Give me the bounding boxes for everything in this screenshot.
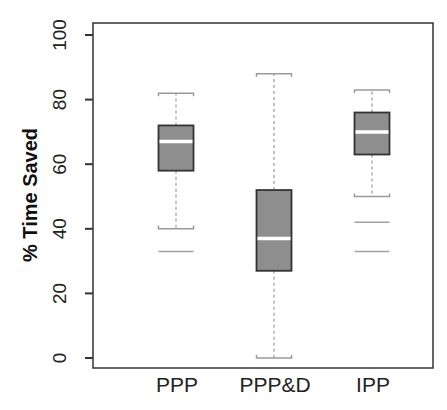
y-tick-label: 100 <box>49 19 70 51</box>
y-tick-label: 0 <box>49 353 70 364</box>
x-axis-labels: PPPPPP&DIPP <box>156 373 390 396</box>
x-category-label: IPP <box>356 373 390 396</box>
boxplot-chart: 020406080100 % Time Saved PPPPPP&DIPP <box>0 0 447 410</box>
y-axis-title: % Time Saved <box>19 128 41 262</box>
box-pppd <box>257 74 292 358</box>
y-tick-label: 80 <box>49 89 70 110</box>
box-ipp <box>355 90 390 252</box>
whisker-cap <box>355 194 390 197</box>
y-tick-label: 40 <box>49 218 70 239</box>
y-tick-label: 60 <box>49 154 70 175</box>
box-ppp <box>159 93 194 251</box>
x-category-label: PPP <box>156 373 198 396</box>
y-axis: 020406080100 <box>49 19 93 363</box>
iqr-box <box>257 190 292 271</box>
y-tick-label: 20 <box>49 283 70 304</box>
boxes <box>159 74 390 358</box>
iqr-box <box>159 125 194 170</box>
x-category-label: PPP&D <box>239 373 310 396</box>
